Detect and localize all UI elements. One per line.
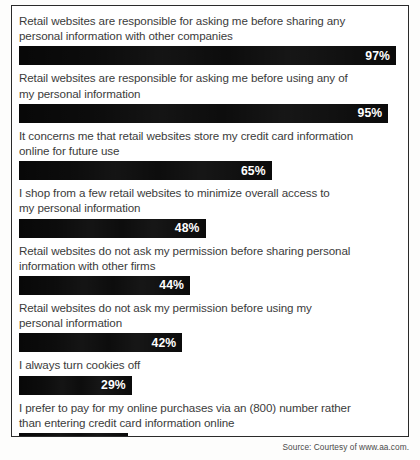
bar-track: 95%	[12, 104, 408, 123]
bar: 28%	[19, 433, 128, 437]
bar-value-label: 28%	[97, 436, 122, 437]
source-caption: Source: Courtesy of www.aa.com.	[282, 442, 409, 452]
bar-row: I shop from a few retail websites to min…	[12, 182, 408, 237]
bar-row: I prefer to pay for my online purchases …	[12, 397, 408, 437]
bar: 44%	[19, 276, 190, 295]
bar-track: 48%	[12, 219, 408, 238]
bar-row-label: Retail websites do not ask my permission…	[12, 240, 408, 275]
bar-track: 44%	[12, 276, 408, 295]
chart-frame: Retail websites are responsible for aski…	[11, 5, 409, 437]
bar: 95%	[19, 104, 388, 123]
bar: 48%	[19, 219, 206, 238]
bar-rows-container: Retail websites are responsible for aski…	[12, 6, 408, 436]
bar-value-label: 95%	[358, 107, 383, 119]
bar-track: 65%	[12, 161, 408, 180]
bar-row: Retail websites do not ask my permission…	[12, 297, 408, 352]
bar-row: It concerns me that retail websites stor…	[12, 125, 408, 180]
bar: 65%	[19, 161, 272, 180]
bar-value-label: 29%	[101, 379, 126, 391]
bar-value-label: 42%	[152, 337, 177, 349]
bar-row-label: Retail websites do not ask my permission…	[12, 297, 408, 332]
bar-row-label: I shop from a few retail websites to min…	[12, 182, 408, 217]
bar: 97%	[19, 46, 396, 65]
bar-track: 29%	[12, 376, 408, 395]
bar-row: Retail websites are responsible for aski…	[12, 67, 408, 122]
bar-row: Retail websites are responsible for aski…	[12, 10, 408, 65]
bar-track: 42%	[12, 333, 408, 352]
bar: 29%	[19, 376, 132, 395]
bar-row-label: Retail websites are responsible for aski…	[12, 10, 408, 45]
bar-value-label: 65%	[241, 165, 266, 177]
bar-row-label: Retail websites are responsible for aski…	[12, 67, 408, 102]
bar-value-label: 48%	[175, 222, 200, 234]
bar-value-label: 44%	[159, 279, 184, 291]
bar-row-label: I always turn cookies off	[12, 354, 408, 374]
bar-row-label: It concerns me that retail websites stor…	[12, 125, 408, 160]
bar-value-label: 97%	[365, 50, 390, 62]
bar: 42%	[19, 333, 182, 352]
bar-track: 97%	[12, 46, 408, 65]
bar-row-label: I prefer to pay for my online purchases …	[12, 397, 408, 432]
bar-row: Retail websites do not ask my permission…	[12, 240, 408, 295]
bar-track: 28%	[12, 433, 408, 437]
bar-row: I always turn cookies off29%	[12, 354, 408, 394]
